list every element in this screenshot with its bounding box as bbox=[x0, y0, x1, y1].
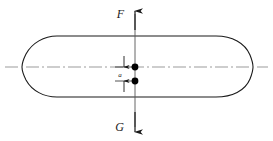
force-g-label: G bbox=[115, 120, 124, 134]
dimension-a-label: a bbox=[118, 71, 122, 79]
lower-point-marker bbox=[132, 78, 139, 85]
force-f-label: F bbox=[116, 7, 125, 21]
diagram-canvas: F G a bbox=[0, 0, 273, 141]
free-body-diagram: F G a bbox=[0, 0, 273, 141]
upper-point-marker bbox=[132, 64, 139, 71]
